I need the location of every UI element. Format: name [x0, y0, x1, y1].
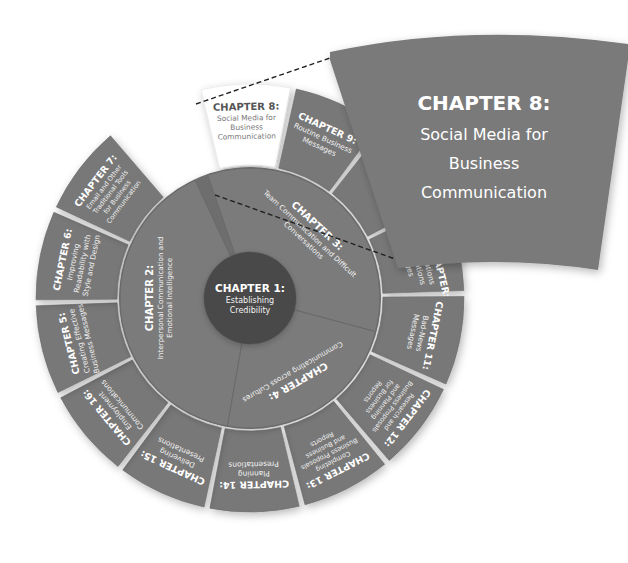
- label-group: CHAPTER 8:Social Media forBusinessCommun…: [213, 100, 280, 141]
- chapter-subtitle-line: Social Media for: [217, 113, 277, 123]
- chapter-wheel-diagram: CHAPTER 8:Social Media forBusinessCommun…: [0, 0, 628, 563]
- chapter-title: CHAPTER 14:: [219, 479, 289, 492]
- chapter-subtitle-line: Credibility: [230, 306, 271, 315]
- callout-subtitle-line: Business: [449, 154, 520, 173]
- center-chapter-1: CHAPTER 1:EstablishingCredibility: [204, 252, 296, 344]
- chapter-title: CHAPTER 1:: [215, 282, 285, 294]
- chapter-title: CHAPTER 8:: [213, 100, 280, 112]
- chapter-subtitle-line: Interpersonal Communication and: [156, 237, 165, 360]
- chapter-8-callout: CHAPTER 8:Social Media forBusinessCommun…: [330, 35, 628, 270]
- chapter-subtitle-line: Business: [230, 122, 263, 132]
- chapter-title: CHAPTER 2:: [144, 265, 155, 332]
- outer-tile-ch8[interactable]: CHAPTER 8:Social Media forBusinessCommun…: [201, 84, 290, 169]
- chapter-subtitle-line: Establishing: [226, 296, 274, 305]
- callout-panel: [330, 35, 628, 270]
- chapter-subtitle-line: Emotional Intelligence: [165, 257, 174, 338]
- chapter-subtitle-line: Communication: [218, 131, 277, 141]
- callout-subtitle-line: Social Media for: [420, 125, 548, 144]
- callout-title: CHAPTER 8:: [417, 91, 550, 115]
- outer-tile-ch14[interactable]: CHAPTER 14:PlanningPresentations: [210, 427, 299, 512]
- chapter-subtitle-line: Planning: [238, 469, 270, 479]
- chapter-subtitle-line: Presentations: [228, 459, 279, 469]
- callout-subtitle-line: Communication: [421, 183, 547, 202]
